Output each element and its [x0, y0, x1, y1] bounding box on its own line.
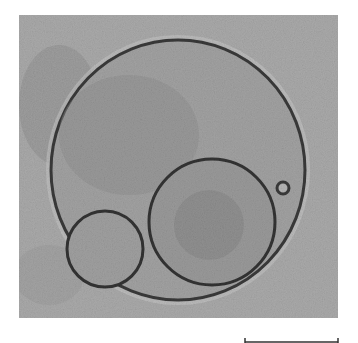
micrograph-image [19, 15, 338, 318]
inner-vesicle-small [67, 211, 143, 287]
micrograph-panel [19, 15, 338, 318]
tiny-vesicle [277, 182, 289, 194]
scale-bar [244, 338, 339, 343]
